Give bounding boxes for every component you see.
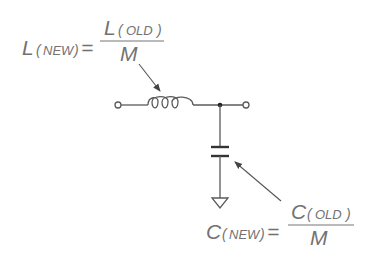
numerator-subscript-old: OLD — [315, 207, 342, 222]
numerator-c-symbol: C — [291, 200, 307, 223]
circuit — [115, 97, 249, 208]
input-terminal — [115, 102, 121, 108]
numerator-open-paren: ( — [118, 22, 124, 38]
lhs-subscript-new: NEW — [229, 227, 261, 242]
numerator-open-paren: ( — [307, 206, 313, 222]
lhs-open-paren: ( — [222, 226, 228, 242]
numerator-close-paren: ) — [155, 22, 162, 38]
lhs-l-symbol: L — [22, 36, 34, 59]
lc-filter-diagram: L ( NEW ) = L ( OLD ) M C — [0, 0, 389, 253]
inductor-pointer-arrow — [139, 64, 160, 91]
capacitor-pointer-arrow — [235, 162, 281, 201]
capacitor-equation: C ( NEW ) = C ( OLD ) M — [206, 200, 354, 249]
lhs-c-symbol: C — [206, 220, 222, 243]
equals-sign: = — [81, 36, 93, 59]
numerator-subscript-old: OLD — [126, 23, 153, 38]
equals-sign: = — [267, 220, 279, 243]
lhs-subscript-new: NEW — [43, 43, 75, 58]
inductor-equation: L ( NEW ) = L ( OLD ) M — [22, 16, 164, 65]
denominator-m: M — [310, 226, 328, 249]
lhs-open-paren: ( — [36, 42, 42, 58]
inductor-icon — [148, 97, 193, 108]
denominator-m: M — [120, 42, 138, 65]
numerator-l-symbol: L — [104, 16, 116, 39]
ground-icon — [212, 198, 228, 208]
numerator-close-paren: ) — [344, 206, 351, 222]
output-terminal — [243, 102, 249, 108]
